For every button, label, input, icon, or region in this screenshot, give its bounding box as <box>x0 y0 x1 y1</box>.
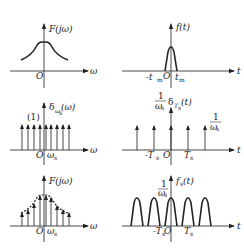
panel-periodic-time-signal: f s (t) 1 ω s t O -T s T s <box>122 176 241 242</box>
tick-neg-ts: -T s <box>145 150 159 161</box>
panel-impulse-train-frequency: δ ω s (ω) (1) ω O ω s <box>10 102 98 165</box>
tick-omega-s: ω s <box>47 226 57 237</box>
svg-text:m: m <box>157 76 163 83</box>
y-axis-label: F(jω) <box>48 24 73 34</box>
impulse-weight-label: (1) <box>27 112 40 122</box>
origin-label: O <box>163 71 171 81</box>
weighted-impulse-arrows <box>22 196 69 226</box>
y-axis-label: f(t) <box>175 22 190 32</box>
y-axis-label: δ ω s (ω) <box>49 102 76 116</box>
tick-ts: T s <box>184 226 193 237</box>
svg-text:s: s <box>54 230 57 237</box>
x-axis-label: t <box>237 221 241 231</box>
tick-omega-s: ω s <box>47 150 57 161</box>
x-axis-label: ω <box>90 221 98 231</box>
svg-text:-T: -T <box>145 150 155 160</box>
tick-neg-tm: -t m <box>146 72 163 83</box>
tick-tm: t m <box>175 72 185 83</box>
sampling-diagram: F(jω) ω O f(t) t O -t m t m <box>0 0 244 250</box>
x-axis-label: t <box>237 66 241 76</box>
svg-text:s: s <box>216 125 219 132</box>
svg-text:m: m <box>179 76 185 83</box>
svg-text:(t): (t) <box>183 176 194 186</box>
svg-text:s: s <box>161 104 164 111</box>
origin-label: O <box>164 226 172 236</box>
y-axis-label: f s (t) <box>175 176 194 187</box>
impulse-arrows <box>22 125 69 150</box>
panel-time-signal: f(t) t O -t m t m <box>122 22 241 88</box>
panel-sampled-spectrum: F(jω) ω O ω s <box>10 176 98 242</box>
svg-text:s: s <box>190 230 193 237</box>
svg-text:(ω): (ω) <box>61 102 76 112</box>
origin-label: O <box>36 150 44 160</box>
x-axis-label: ω <box>90 145 98 155</box>
y-axis-label: F(jω) <box>48 176 73 186</box>
svg-text:1: 1 <box>158 91 164 101</box>
svg-text:(t): (t) <box>181 97 192 107</box>
svg-text:-t: -t <box>146 72 153 82</box>
panel-spectrum-original: F(jω) ω O <box>10 24 98 88</box>
svg-text:s: s <box>54 154 57 161</box>
svg-text:s: s <box>162 230 165 237</box>
svg-text:1: 1 <box>213 112 219 122</box>
tick-ts: T s <box>184 150 193 161</box>
panel-impulse-train-time: 1 ω s δ T s (t) 1 ω s t O -T s T s <box>122 91 241 165</box>
origin-label: O <box>36 71 44 81</box>
impulse-height-label: 1 ω s <box>210 112 221 132</box>
x-axis-label: ω <box>90 66 98 76</box>
x-axis-label: t <box>237 145 241 155</box>
svg-text:s: s <box>164 191 167 198</box>
origin-label: O <box>36 226 44 236</box>
svg-text:s: s <box>190 154 193 161</box>
impulse-arrows <box>137 126 205 150</box>
y-axis-label: 1 ω s δ T s (t) <box>155 91 192 111</box>
svg-text:δ: δ <box>168 97 173 107</box>
origin-label: O <box>163 150 171 160</box>
spectrum-curve <box>21 42 68 60</box>
svg-text:δ: δ <box>49 102 54 112</box>
svg-text:s: s <box>156 154 159 161</box>
pulse-height-label: 1 ω s <box>158 179 168 198</box>
